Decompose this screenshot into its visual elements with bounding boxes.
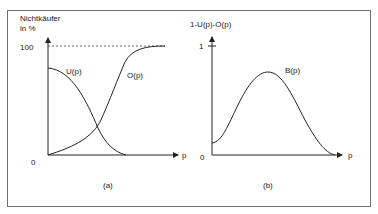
y-tick-100: 100 bbox=[20, 43, 34, 52]
y-axis-label-b: 1-U(p)-O(p) bbox=[190, 20, 232, 29]
origin-label-a: 0 bbox=[31, 158, 36, 167]
chart-b: 1-U(p)-O(p) 1 0 p (b) B(p) bbox=[190, 20, 353, 190]
curve-O bbox=[48, 46, 165, 155]
caption-b: (b) bbox=[263, 181, 273, 190]
y-axis-label-a-line2: in % bbox=[20, 24, 36, 33]
figure: Nichtkäufer in % 100 0 p (a) U(p) O(p) 1… bbox=[0, 0, 378, 214]
chart-a: Nichtkäufer in % 100 0 p (a) U(p) O(p) bbox=[20, 14, 187, 190]
y-tick-1: 1 bbox=[199, 42, 204, 51]
label-B: B(p) bbox=[285, 66, 300, 75]
caption-a: (a) bbox=[103, 181, 113, 190]
x-axis-label-a: p bbox=[182, 151, 187, 160]
y-axis-label-a-line1: Nichtkäufer bbox=[20, 14, 61, 23]
label-U: U(p) bbox=[66, 67, 82, 76]
origin-label-b: 0 bbox=[200, 153, 205, 162]
curve-U bbox=[48, 68, 126, 155]
x-axis-label-b: p bbox=[348, 151, 353, 160]
label-O: O(p) bbox=[127, 71, 143, 80]
curve-B bbox=[212, 72, 335, 155]
